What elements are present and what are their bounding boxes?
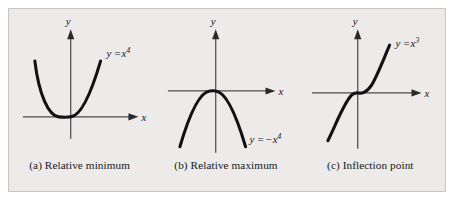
equation-operator-b: = bbox=[258, 133, 264, 145]
equation-lhs-b: y bbox=[249, 133, 255, 145]
panel-relative-maximum: x y y=−x4 (b) Relative maximum bbox=[154, 9, 299, 191]
x-axis-arrowhead-c bbox=[411, 89, 421, 96]
y-axis-arrowhead-a bbox=[67, 29, 74, 39]
equation-label-a: y=x4 bbox=[106, 46, 131, 59]
equation-sign-b: − bbox=[266, 133, 272, 145]
plot-area-b: x y y=−x4 bbox=[154, 13, 299, 153]
curve-x-fourth bbox=[35, 61, 101, 117]
equation-operator-a: = bbox=[114, 47, 120, 59]
caption-b: (b) Relative maximum bbox=[154, 159, 299, 171]
y-axis-label-b: y bbox=[210, 15, 216, 27]
y-axis-arrowhead-c bbox=[354, 29, 361, 39]
y-axis-arrowhead-b bbox=[212, 29, 219, 39]
equation-exponent-c: 3 bbox=[414, 36, 419, 45]
x-axis-arrowhead-b bbox=[266, 87, 276, 94]
panel-relative-minimum: x y y=x4 (a) Relative minimum bbox=[9, 9, 154, 191]
equation-label-b: y=−x4 bbox=[249, 132, 282, 145]
x-axis-arrowhead-a bbox=[128, 113, 138, 120]
panel-row: x y y=x4 (a) Relative minimum x bbox=[9, 9, 445, 191]
equation-exponent-b: 4 bbox=[278, 132, 282, 141]
equation-label-c: y=x3 bbox=[394, 36, 419, 49]
y-axis-label-c: y bbox=[351, 15, 357, 27]
x-axis-label-b: x bbox=[278, 85, 284, 97]
curve-negative-x-fourth bbox=[180, 91, 246, 147]
equation-operator-c: = bbox=[403, 37, 409, 49]
plot-area-a: x y y=x4 bbox=[9, 13, 154, 153]
equation-lhs-a: y bbox=[106, 47, 112, 59]
caption-a: (a) Relative minimum bbox=[9, 159, 154, 171]
panel-inflection-point: x y y=x3 (c) Inflection point bbox=[300, 9, 445, 191]
equation-lhs-c: y bbox=[394, 37, 400, 49]
y-axis-label-a: y bbox=[65, 15, 71, 27]
equation-exponent-a: 4 bbox=[126, 46, 130, 55]
caption-c: (c) Inflection point bbox=[300, 159, 445, 171]
x-axis-label-c: x bbox=[423, 87, 429, 99]
figure-container: x y y=x4 (a) Relative minimum x bbox=[8, 8, 446, 192]
plot-area-c: x y y=x3 bbox=[300, 13, 445, 153]
x-axis-label-a: x bbox=[140, 111, 146, 123]
